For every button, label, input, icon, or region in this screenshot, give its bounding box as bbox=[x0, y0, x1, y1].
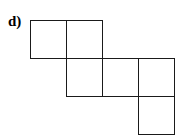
net-square bbox=[30, 20, 67, 59]
net-square bbox=[102, 58, 139, 97]
net-square bbox=[138, 58, 175, 97]
net-square bbox=[66, 20, 103, 59]
net-square bbox=[138, 96, 175, 135]
figure-label: d) bbox=[8, 14, 21, 29]
net-square bbox=[66, 58, 103, 97]
